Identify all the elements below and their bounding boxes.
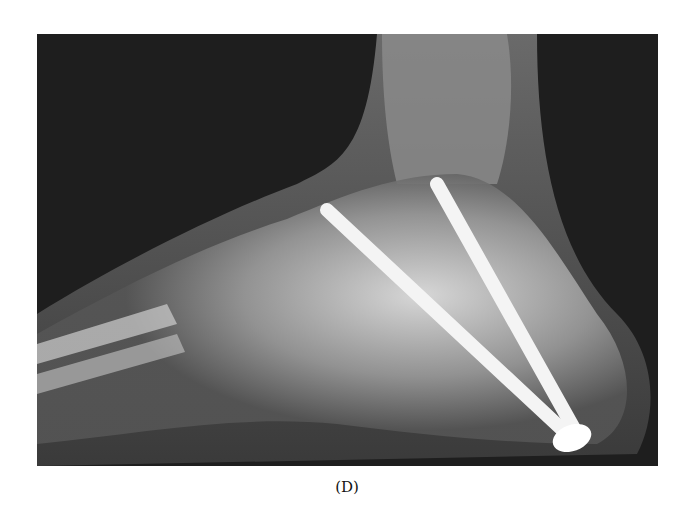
figure-caption: (D) bbox=[0, 478, 694, 496]
xray-image bbox=[37, 34, 658, 466]
foot-xray-graphic bbox=[37, 34, 658, 466]
